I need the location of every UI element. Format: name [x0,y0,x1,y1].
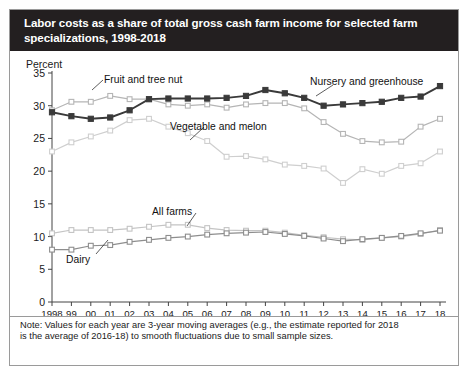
series-marker [224,231,229,236]
series-marker [69,114,74,119]
series-marker [108,115,113,120]
series-marker [302,234,307,239]
series-marker [437,83,442,88]
series-marker [321,236,326,241]
series-marker [147,237,152,242]
y-tick-label: 0 [39,296,45,308]
series-marker [224,154,229,159]
series-marker [263,157,268,162]
series-marker [224,105,229,110]
series-marker [127,97,132,102]
series-marker [50,149,55,154]
chart-screenshot: Labor costs as a share of total gross ca… [0,0,469,376]
x-tick-label: 02 [124,308,135,319]
x-tick-label: 99 [66,308,77,319]
annotation-nursery: Nursery and greenhouse [310,76,423,87]
series-marker [147,224,152,229]
annotation-leader-line [96,240,108,254]
series-marker [341,131,346,136]
series-marker [399,139,404,144]
series-marker [418,231,423,236]
x-tick-label: 13 [338,308,349,319]
series-marker [205,102,210,107]
series-marker [418,94,423,99]
series-marker [379,99,384,104]
x-tick-label: 03 [144,308,155,319]
series-marker [166,96,171,101]
x-tick-label: 12 [318,308,329,319]
series-marker [379,171,384,176]
x-tick-label: 18 [435,308,446,319]
series-marker [379,140,384,145]
series-marker [108,228,113,233]
series-marker [282,232,287,237]
series-marker [360,237,365,242]
series-marker [244,230,249,235]
series-marker [127,226,132,231]
series-marker [399,95,404,100]
series-marker [69,228,74,233]
series-marker [88,99,93,104]
series-marker [50,231,55,236]
series-marker [244,102,249,107]
note-line2: is the average of 2016-18) to smooth flu… [20,331,448,342]
series-marker [88,116,93,121]
x-tick-label: 05 [182,308,193,319]
series-marker [418,124,423,129]
series-marker [438,116,443,121]
series-group [49,83,442,252]
series-marker [399,164,404,169]
series-marker [263,230,268,235]
y-tick-label: 25 [33,132,45,144]
annotation-fruit: Fruit and tree nut [104,74,182,85]
series-marker [185,234,190,239]
series-marker [399,234,404,239]
series-marker [263,87,268,92]
series-marker [50,247,55,252]
series-marker [69,247,74,252]
series-marker [108,94,113,99]
series-marker [321,120,326,125]
series-marker [379,235,384,240]
x-tick-label: 06 [202,308,213,319]
series-marker [282,91,287,96]
series-marker [205,96,210,101]
y-tick-label: 15 [33,198,45,210]
series-marker [302,95,307,100]
series-marker [49,110,54,115]
series-marker [321,166,326,171]
series-marker [69,99,74,104]
series-marker [244,154,249,159]
series-marker [88,134,93,139]
series-marker [224,95,229,100]
x-tick-label: 1998 [41,308,62,319]
series-marker [360,101,365,106]
series-marker [438,149,443,154]
series-marker [341,239,346,244]
series-marker [321,103,326,108]
x-tick-label: 17 [415,308,426,319]
series-marker [282,101,287,106]
x-tick-label: 04 [163,308,174,319]
series-marker [360,167,365,172]
y-tick-label: 10 [33,231,45,243]
series-marker [185,96,190,101]
annotation-vegetable: Vegetable and melon [170,121,267,132]
y-tick-label: 20 [33,165,45,177]
series-marker [360,139,365,144]
series-marker [147,116,152,121]
series-marker [185,103,190,108]
x-tick-label: 14 [357,308,368,319]
x-tick-label: 08 [241,308,252,319]
series-marker [438,228,443,233]
annotation-dairy: Dairy [66,254,90,265]
series-marker [166,235,171,240]
series-marker [166,102,171,107]
series-marker [302,106,307,111]
series-marker [341,181,346,186]
series-marker [108,243,113,248]
series-marker [302,164,307,169]
series-marker [146,97,151,102]
annotation-leader-line [92,80,103,90]
series-marker [418,161,423,166]
